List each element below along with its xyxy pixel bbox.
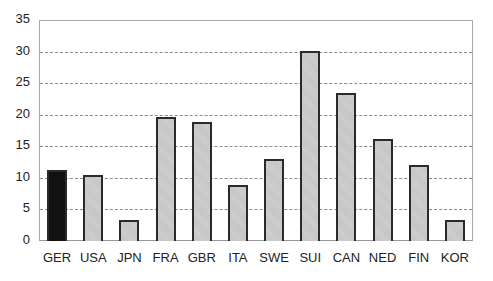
- x-tick-label: NED: [363, 251, 403, 265]
- y-tick-label: 5: [0, 201, 30, 215]
- x-tick-label: GER: [37, 251, 77, 265]
- gridline: [40, 209, 472, 210]
- bar-ger: [47, 170, 67, 241]
- bar-fra: [156, 117, 176, 241]
- y-tick-label: 15: [0, 138, 30, 152]
- gridline: [40, 52, 472, 53]
- bar-fin: [409, 165, 429, 241]
- x-tick-label: USA: [73, 251, 113, 265]
- gridline: [40, 115, 472, 116]
- gridline: [40, 83, 472, 84]
- bar-can: [336, 93, 356, 241]
- bar-jpn: [119, 220, 139, 241]
- bar-sui: [300, 51, 320, 241]
- bar-gbr: [192, 122, 212, 241]
- x-tick-label: KOR: [435, 251, 475, 265]
- bar-swe: [264, 159, 284, 241]
- x-tick-label: FRA: [146, 251, 186, 265]
- gridline: [40, 146, 472, 147]
- bar-ita: [228, 185, 248, 241]
- y-tick-label: 30: [0, 44, 30, 58]
- y-tick-label: 10: [0, 170, 30, 184]
- bar-usa: [83, 175, 103, 241]
- bar-kor: [445, 220, 465, 241]
- x-tick-label: SWE: [254, 251, 294, 265]
- y-tick-label: 35: [0, 12, 30, 26]
- bar-chart: 05101520253035 GERUSAJPNFRAGBRITASWESUIC…: [0, 0, 493, 281]
- y-tick-label: 25: [0, 75, 30, 89]
- x-tick-label: GBR: [182, 251, 222, 265]
- bar-ned: [373, 139, 393, 241]
- y-tick-label: 20: [0, 107, 30, 121]
- x-tick-label: JPN: [109, 251, 149, 265]
- x-tick-label: ITA: [218, 251, 258, 265]
- x-tick-label: SUI: [290, 251, 330, 265]
- x-tick-label: CAN: [326, 251, 366, 265]
- gridline: [40, 178, 472, 179]
- y-tick-label: 0: [0, 233, 30, 247]
- x-tick-label: FIN: [399, 251, 439, 265]
